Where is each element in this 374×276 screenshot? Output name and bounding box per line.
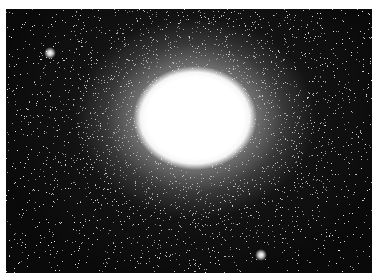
bright-stars (6, 9, 372, 273)
star-cluster-photo (6, 9, 372, 273)
